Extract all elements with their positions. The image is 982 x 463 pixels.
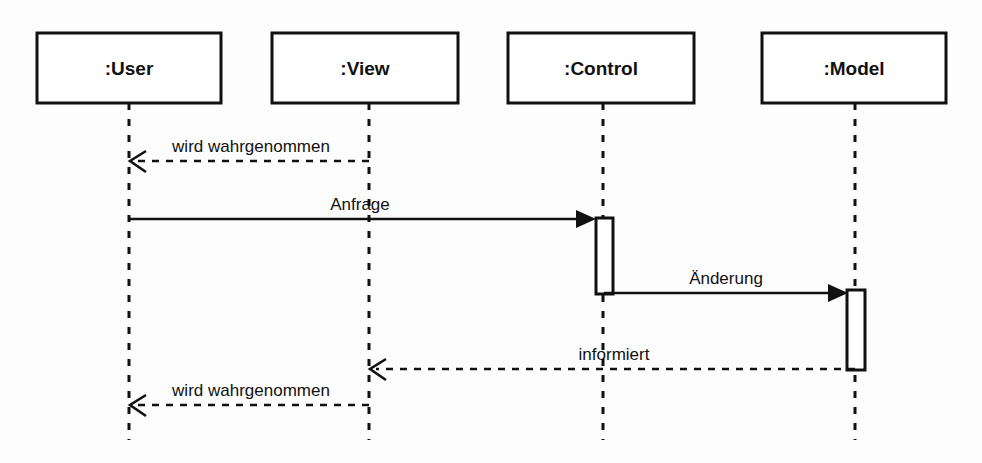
participant-boxes-group: :User :View :Control :Model bbox=[37, 33, 946, 103]
message-label-anfrage: Anfrage bbox=[330, 195, 390, 214]
message-wird-wahrgenommen-2[interactable]: wird wahrgenommen bbox=[130, 381, 369, 416]
activation-bar-model bbox=[847, 290, 865, 370]
participant-model[interactable]: :Model bbox=[762, 33, 946, 103]
participant-control[interactable]: :Control bbox=[508, 33, 694, 103]
sequence-diagram-canvas: :User :View :Control :Model wird wahrgen… bbox=[0, 0, 982, 463]
message-informiert[interactable]: informiert bbox=[370, 345, 855, 380]
activation-bar-control bbox=[596, 218, 613, 294]
message-label-aenderung: Änderung bbox=[689, 269, 763, 288]
message-label-wird-wahrgenommen-1: wird wahrgenommen bbox=[171, 137, 330, 156]
message-anfrage[interactable]: Anfrage bbox=[129, 195, 596, 228]
arrowhead-filled-aenderung bbox=[828, 284, 848, 302]
participant-label-control: :Control bbox=[564, 58, 638, 79]
participant-label-user: :User bbox=[105, 58, 154, 79]
participant-user[interactable]: :User bbox=[37, 33, 221, 103]
message-label-informiert: informiert bbox=[579, 345, 650, 364]
message-label-wird-wahrgenommen-2: wird wahrgenommen bbox=[171, 381, 330, 400]
sequence-diagram-svg: :User :View :Control :Model wird wahrgen… bbox=[0, 0, 982, 463]
message-aenderung[interactable]: Änderung bbox=[604, 269, 848, 302]
participant-view[interactable]: :View bbox=[272, 33, 458, 103]
message-wird-wahrgenommen-1[interactable]: wird wahrgenommen bbox=[130, 137, 369, 172]
arrowhead-filled-anfrage bbox=[576, 210, 596, 228]
participant-label-view: :View bbox=[340, 58, 390, 79]
participant-label-model: :Model bbox=[823, 58, 884, 79]
